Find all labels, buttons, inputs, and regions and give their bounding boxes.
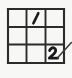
grid-figure — [0, 0, 72, 78]
cell-r3c2[interactable] — [27, 45, 46, 64]
cell-r1c1[interactable] — [8, 9, 27, 27]
cell-r2c2[interactable] — [27, 27, 46, 45]
cell-r1c3[interactable] — [46, 9, 65, 27]
cell-r2c1[interactable] — [8, 27, 27, 45]
cell-r3c1[interactable] — [8, 45, 27, 64]
cell-r2c3[interactable] — [46, 27, 65, 45]
figure-canvas — [0, 0, 72, 78]
